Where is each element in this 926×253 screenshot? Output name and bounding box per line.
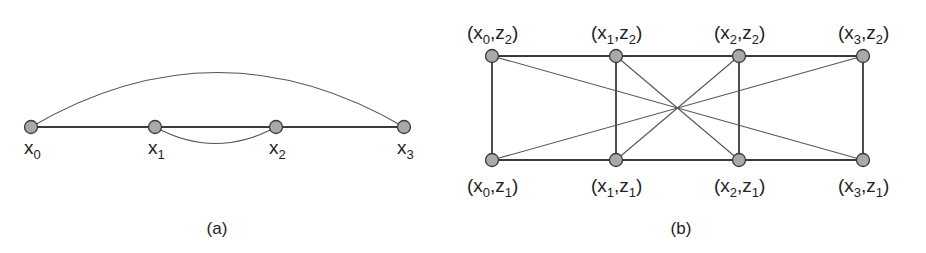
node-x1z1	[610, 154, 623, 167]
node-x0z1	[486, 154, 499, 167]
label-x2z1: (x2,z1)	[714, 175, 765, 200]
node-x0	[25, 121, 38, 134]
node-x3	[398, 121, 411, 134]
label-x3z1: (x3,z1)	[838, 175, 889, 200]
label-x2: x2	[269, 137, 286, 162]
label-x1: x1	[148, 137, 165, 162]
panel-a-caption: (a)	[207, 219, 228, 238]
edge-x1-x2-arc-below	[155, 127, 276, 144]
label-x1z1: (x1,z1)	[591, 175, 642, 200]
label-x0z2: (x0,z2)	[467, 22, 518, 47]
panel-a-graph: x0x1x2x3 (a)	[24, 73, 414, 239]
node-x3z1	[857, 154, 870, 167]
panel-b-graph: (x0,z2)(x1,z2)(x2,z2)(x3,z2)(x0,z1)(x1,z…	[467, 22, 889, 238]
node-x1z2	[610, 50, 623, 63]
node-x3z2	[857, 50, 870, 63]
label-x0z1: (x0,z1)	[467, 175, 518, 200]
node-x1	[149, 121, 162, 134]
node-x2z1	[733, 154, 746, 167]
label-x2z2: (x2,z2)	[714, 22, 765, 47]
panel-b-caption: (b)	[671, 219, 692, 238]
node-x2	[270, 121, 283, 134]
label-x0: x0	[24, 137, 41, 162]
node-x2z2	[733, 50, 746, 63]
node-x0z2	[486, 50, 499, 63]
edge-x0-x3-arc-above	[31, 73, 404, 128]
label-x1z2: (x1,z2)	[591, 22, 642, 47]
figure-canvas: x0x1x2x3 (a) (x0,z2)(x1,z2)(x2,z2)(x3,z2…	[0, 0, 926, 253]
label-x3z2: (x3,z2)	[838, 22, 889, 47]
label-x3: x3	[397, 137, 414, 162]
